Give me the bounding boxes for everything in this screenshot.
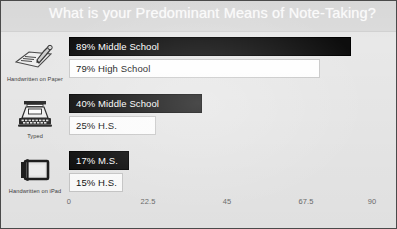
plot-area: 89% Middle School 79% High School 40% Mi… xyxy=(69,37,385,192)
bar-value-label: 40% Middle School xyxy=(70,98,159,109)
bar-value-label: 89% Middle School xyxy=(70,41,159,52)
category-label: Handwritten on iPad xyxy=(3,188,67,194)
pencil-on-paper-icon xyxy=(3,41,67,75)
category-label: Handwritten on Paper xyxy=(3,76,67,82)
axis-tick-45: 45 xyxy=(223,197,232,206)
bar-row[interactable]: 40% Middle School xyxy=(69,94,202,113)
page-title: What is your Predominant Means of Note-T… xyxy=(1,5,397,21)
axis-tick-67-5: 67.5 xyxy=(299,197,314,206)
axis-tick-22-5: 22.5 xyxy=(141,197,156,206)
axis-tick-90: 90 xyxy=(368,197,377,206)
axis-tick-0: 0 xyxy=(67,197,71,206)
tablet-stylus-icon xyxy=(3,153,67,187)
category-handwritten-on-paper: Handwritten on Paper xyxy=(3,41,67,82)
bar-row[interactable]: 89% Middle School xyxy=(69,37,351,56)
bar-value-label: 79% High School xyxy=(70,63,150,74)
bar-value-label: 17% M.S. xyxy=(70,155,118,166)
bar-value-label: 15% H.S. xyxy=(70,177,117,188)
bar-row[interactable]: 79% High School xyxy=(69,59,320,78)
bar-row[interactable]: 17% M.S. xyxy=(69,151,129,170)
category-handwritten-on-ipad: Handwritten on iPad xyxy=(3,153,67,194)
category-typed: Typed xyxy=(3,98,67,139)
bar-value-label: 25% H.S. xyxy=(70,120,117,131)
category-label: Typed xyxy=(3,133,67,139)
chart-slide: What is your Predominant Means of Note-T… xyxy=(0,0,397,229)
title-band: What is your Predominant Means of Note-T… xyxy=(1,1,397,32)
bar-row[interactable]: 25% H.S. xyxy=(69,116,156,135)
typewriter-icon xyxy=(3,98,67,132)
bar-row[interactable]: 15% H.S. xyxy=(69,173,123,192)
